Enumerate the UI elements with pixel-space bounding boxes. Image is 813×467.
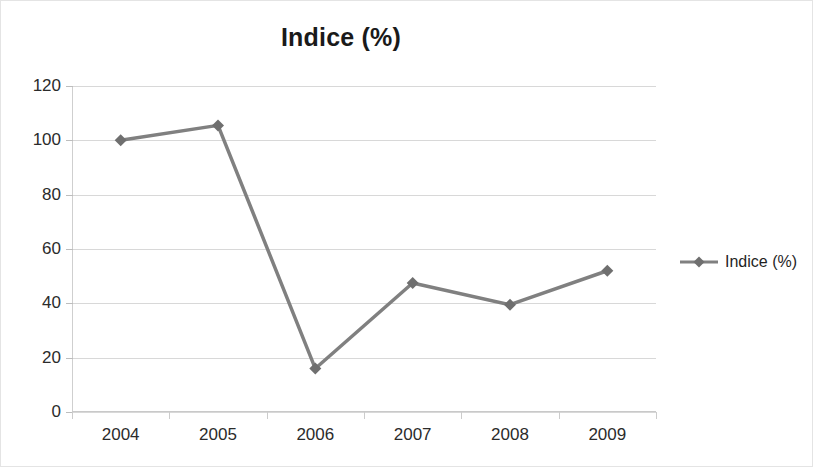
- chart-figure: Indice (%) 020406080100120 Indice (%) 20…: [0, 0, 813, 467]
- y-axis-tick-mark: [66, 86, 73, 87]
- x-axis-tick-label: 2006: [296, 425, 334, 445]
- x-axis-tick-mark: [461, 412, 462, 419]
- data-point-marker: [601, 265, 613, 277]
- x-axis-tick-label: 2009: [588, 425, 626, 445]
- x-axis-tick-label: 2007: [394, 425, 432, 445]
- data-point-marker: [115, 134, 127, 146]
- legend-label-indice: Indice (%): [725, 253, 797, 271]
- diamond-marker-icon: [679, 254, 719, 270]
- y-axis-tick-mark: [66, 140, 73, 141]
- x-axis-tick-mark: [364, 412, 365, 419]
- x-axis-tick-mark: [559, 412, 560, 419]
- y-axis-tick-mark: [66, 249, 73, 250]
- x-axis-tick-label: 2008: [491, 425, 529, 445]
- series-line: [121, 125, 608, 368]
- data-point-marker: [212, 119, 224, 131]
- data-point-marker: [504, 299, 516, 311]
- series-plot: [1, 1, 813, 467]
- legend: Indice (%): [679, 253, 797, 271]
- y-axis-tick-mark: [66, 358, 73, 359]
- x-axis-tick-label: 2004: [102, 425, 140, 445]
- x-axis-tick-mark: [267, 412, 268, 419]
- x-axis-tick-label: 2005: [199, 425, 237, 445]
- y-axis-tick-mark: [66, 303, 73, 304]
- y-axis-tick-mark: [66, 195, 73, 196]
- x-axis-tick-mark: [72, 412, 73, 419]
- x-axis-tick-mark: [656, 412, 657, 419]
- x-axis-tick-mark: [169, 412, 170, 419]
